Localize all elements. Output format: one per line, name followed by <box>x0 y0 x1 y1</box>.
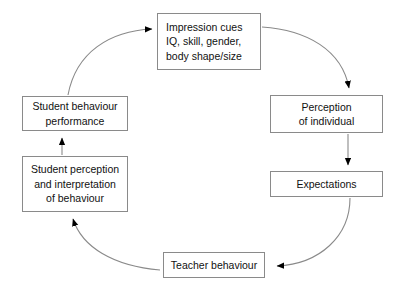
node-student-behaviour-line-1: Student behaviour <box>32 99 117 114</box>
connector-teacher-to-student-perception <box>73 219 160 270</box>
node-student-behaviour-line-2: performance <box>46 114 105 129</box>
connector-impression-to-perception <box>262 27 349 88</box>
node-expectations: Expectations <box>270 171 383 197</box>
node-student-behaviour: Student behaviour performance <box>22 96 128 131</box>
node-impression-cues-line-2: IQ, skill, gender, <box>166 34 241 49</box>
node-teacher-behaviour: Teacher behaviour <box>163 252 265 278</box>
node-perception-of-individual: Perception of individual <box>270 95 383 133</box>
node-expectations-line-1: Expectations <box>296 177 356 192</box>
node-impression-cues-line-3: body shape/size <box>166 49 242 64</box>
node-teacher-behaviour-line-1: Teacher behaviour <box>171 258 257 273</box>
node-student-perception-line-1: Student perception <box>31 162 119 177</box>
node-impression-cues-line-1: Impression cues <box>166 20 242 35</box>
node-perception-line-2: of individual <box>299 114 354 129</box>
connector-expectations-to-teacher <box>277 198 350 266</box>
flow-diagram: Impression cues IQ, skill, gender, body … <box>0 0 398 298</box>
connector-student-behaviour-to-impression <box>68 29 152 95</box>
node-student-perception-line-3: of behaviour <box>46 191 104 206</box>
node-impression-cues: Impression cues IQ, skill, gender, body … <box>157 13 261 70</box>
node-student-perception-line-2: and interpretation <box>34 177 116 192</box>
node-perception-line-1: Perception <box>301 100 351 115</box>
node-student-perception: Student perception and interpretation of… <box>22 156 128 212</box>
